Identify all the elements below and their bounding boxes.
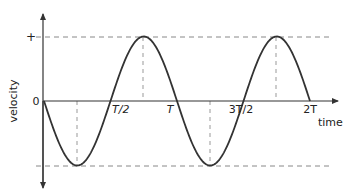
x-tick-half-period: T/2 xyxy=(112,103,129,116)
y-axis-label: velocity xyxy=(7,79,20,122)
x-tick-period: T xyxy=(167,103,175,116)
velocity-time-graph: + 0 velocity T/2 T 3T/2 2T time xyxy=(0,0,346,194)
x-tick-two-periods: 2T xyxy=(303,103,317,116)
x-tick-three-half-period: 3T/2 xyxy=(229,103,253,116)
y-tick-zero: 0 xyxy=(33,95,40,108)
y-tick-plus: + xyxy=(26,30,36,44)
x-axis-label: time xyxy=(318,116,343,129)
